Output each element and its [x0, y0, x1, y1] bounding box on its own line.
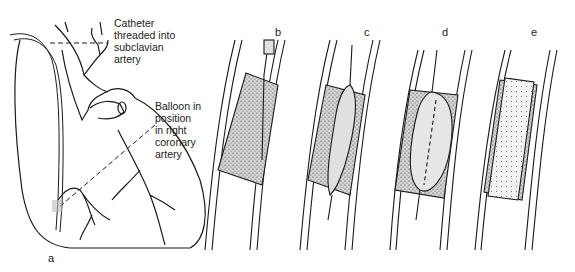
panel-label-b: b	[275, 26, 281, 38]
balloon-annotation: Balloon in position in right coronary ar…	[155, 100, 201, 160]
panel-label-a: a	[48, 252, 54, 264]
angioplasty-diagram	[0, 0, 575, 272]
panel-b-illustration	[205, 40, 285, 250]
panel-label-e: e	[531, 26, 537, 38]
panel-c-illustration	[300, 40, 380, 250]
catheter-annotation: Catheter threaded into subclavian artery	[114, 17, 175, 65]
panel-label-c: c	[364, 26, 370, 38]
panel-label-d: d	[442, 26, 448, 38]
panel-e-illustration	[475, 50, 557, 250]
balloon-marker	[52, 200, 62, 212]
panel-d-illustration	[390, 50, 472, 250]
